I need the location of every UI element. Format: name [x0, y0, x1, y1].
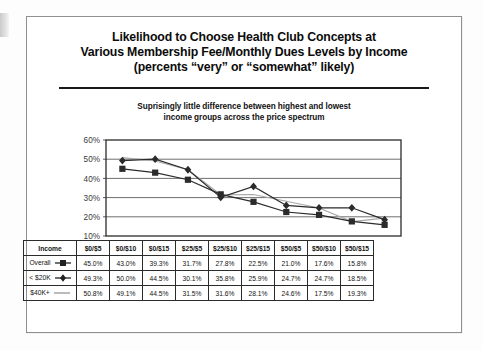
table-header-income: Income	[24, 241, 77, 256]
table-header--25--5: $25/$5	[176, 241, 209, 256]
table-header--50--5: $50/$5	[275, 241, 308, 256]
table-cell: 44.5%	[143, 271, 176, 286]
table-cell: 22.5%	[242, 256, 275, 271]
data-point-marker	[316, 212, 322, 218]
table-cell: 15.8%	[341, 256, 374, 271]
table-row-label-text: $40K+	[30, 289, 50, 296]
table-header--0--10: $0/$10	[110, 241, 143, 256]
chart-subtitle: Suprisingly little difference between hi…	[27, 102, 461, 123]
table-header--50--15: $50/$15	[341, 241, 374, 256]
table-cell: 31.6%	[209, 286, 242, 301]
slide-page: Likelihood to Choose Health Club Concept…	[0, 0, 483, 351]
table-row-label: < $20K	[24, 271, 77, 286]
data-point-marker	[348, 204, 355, 212]
table-cell: 18.5%	[341, 271, 374, 286]
data-point-marker	[283, 202, 290, 210]
table-row: $40K+50.8%49.1%44.5%31.5%31.6%28.1%24.6%…	[24, 286, 374, 301]
chart-canvas: 60%50%40%30%20%10%	[27, 132, 461, 250]
y-axis-label: 20%	[84, 213, 100, 222]
line-marker-icon	[54, 289, 70, 298]
diamond-marker-icon	[55, 274, 71, 283]
y-axis-label: 50%	[84, 156, 100, 165]
table-cell: 28.1%	[242, 286, 275, 301]
table-cell: 31.5%	[176, 286, 209, 301]
chart-subtitle-line-1: Suprisingly little difference between hi…	[27, 102, 461, 113]
table-row: < $20K49.3%50.0%44.5%30.1%35.8%25.9%24.7…	[24, 271, 374, 286]
title-block: Likelihood to Choose Health Club Concept…	[27, 17, 461, 89]
data-point-marker	[119, 166, 125, 172]
data-point-marker	[316, 204, 323, 212]
table-header--0--15: $0/$15	[143, 241, 176, 256]
table-cell: 50.8%	[77, 286, 110, 301]
table-cell: 24.7%	[275, 271, 308, 286]
square-marker-icon	[55, 259, 71, 268]
table-cell: 17.6%	[308, 256, 341, 271]
data-point-marker	[250, 183, 257, 191]
data-point-marker	[152, 170, 158, 176]
table-header--50--10: $50/$10	[308, 241, 341, 256]
table-cell: 49.1%	[110, 286, 143, 301]
table-cell: 19.3%	[341, 286, 374, 301]
chart-subtitle-line-2: income groups across the price spectrum	[27, 113, 461, 124]
line-chart: 60%50%40%30%20%10%	[27, 132, 461, 250]
table-row-label: Overall	[24, 256, 77, 271]
y-axis-label: 30%	[84, 194, 100, 203]
title-divider	[59, 87, 429, 90]
data-table-wrap: Income$0/$5$0/$10$0/$15$25/$5$25/$10$25/…	[23, 240, 374, 301]
data-point-marker	[283, 209, 289, 215]
table-cell: 21.0%	[275, 256, 308, 271]
table-cell: 24.6%	[275, 286, 308, 301]
page-title-line-3: (percents “very” or “somewhat” likely)	[41, 60, 447, 75]
table-cell: 27.8%	[209, 256, 242, 271]
table-cell: 39.3%	[143, 256, 176, 271]
table-cell: 43.0%	[110, 256, 143, 271]
table-cell: 50.0%	[110, 271, 143, 286]
table-row-label-text: Overall	[29, 259, 50, 266]
table-cell: 49.3%	[77, 271, 110, 286]
table-row-label-text: < $20K	[29, 274, 50, 281]
data-point-marker	[250, 199, 256, 205]
table-cell: 24.7%	[308, 271, 341, 286]
data-point-marker	[185, 177, 191, 183]
table-cell: 17.5%	[308, 286, 341, 301]
y-axis-label: 40%	[84, 175, 100, 184]
table-cell: 31.7%	[176, 256, 209, 271]
table-row: Overall45.0%43.0%39.3%31.7%27.8%22.5%21.…	[24, 256, 374, 271]
scan-artifact	[0, 13, 9, 37]
y-axis-label: 60%	[84, 136, 100, 145]
table-cell: 30.1%	[176, 271, 209, 286]
page-title-line-2: Various Membership Fee/Monthly Dues Leve…	[41, 45, 447, 60]
table-cell: 44.5%	[143, 286, 176, 301]
table-cell: 35.8%	[209, 271, 242, 286]
table-header--25--10: $25/$10	[209, 241, 242, 256]
page-title-line-1: Likelihood to Choose Health Club Concept…	[41, 30, 447, 45]
data-table: Income$0/$5$0/$10$0/$15$25/$5$25/$10$25/…	[23, 240, 374, 301]
table-header-row: Income$0/$5$0/$10$0/$15$25/$5$25/$10$25/…	[24, 241, 374, 256]
table-cell: 25.9%	[242, 271, 275, 286]
table-body: Overall45.0%43.0%39.3%31.7%27.8%22.5%21.…	[24, 256, 374, 301]
table-cell: 45.0%	[77, 256, 110, 271]
data-point-marker	[349, 219, 355, 225]
table-header--25--15: $25/$15	[242, 241, 275, 256]
table-header--0--5: $0/$5	[77, 241, 110, 256]
table-row-label: $40K+	[24, 286, 77, 301]
